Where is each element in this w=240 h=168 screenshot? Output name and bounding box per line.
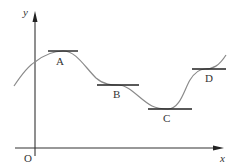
tangent-lines [48,51,226,109]
y-axis-arrow-icon [33,11,38,22]
point-label-b: B [113,88,120,100]
x-axis-arrow-icon [213,146,224,151]
function-graph-diagram: y x O A B C D [0,0,240,168]
point-label-a: A [56,55,64,67]
graph-svg: y x O A B C D [0,0,240,168]
point-label-c: C [163,112,170,124]
axes [15,11,224,156]
y-axis-label: y [22,6,28,18]
x-axis-label: x [219,152,225,164]
point-label-d: D [205,72,213,84]
origin-label: O [24,152,32,164]
function-curve [14,51,226,109]
